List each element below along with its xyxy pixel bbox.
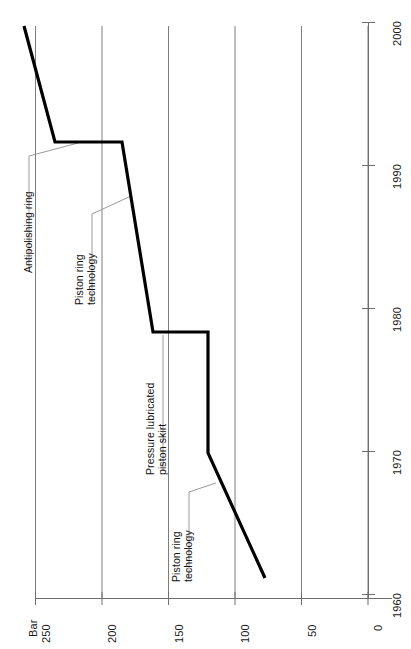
annotation-piston-ring-technology-lower: Piston ring technology (171, 530, 195, 582)
y-tick-label-2000: 2000 (392, 21, 404, 46)
y-tick-label-1970: 1970 (392, 450, 404, 475)
x-tick-label-100: 100 (240, 624, 252, 643)
annotation-line-2: piston skirt (157, 383, 169, 475)
annotation-line-1: Piston ring (74, 253, 86, 305)
chart-plot-area (0, 0, 411, 649)
x-tick-label-250: 250 (41, 624, 53, 643)
y-axis (362, 22, 375, 599)
x-axis-title: Bar (28, 620, 40, 637)
annotation-line-1: Pressure lubricated (145, 383, 157, 475)
annotation-leaders (29, 143, 216, 577)
y-tick-label-1960: 1960 (392, 593, 404, 618)
annotation-line-2: technology (183, 530, 195, 582)
y-tick-label-1980: 1980 (392, 307, 404, 332)
x-tick-label-200: 200 (107, 624, 119, 643)
annotation-antipolishing-ring: Antipolishing ring (23, 191, 34, 273)
x-tick-label-150: 150 (174, 624, 186, 643)
leader-antipolishing-ring (29, 143, 78, 268)
chart-container: Bar 250 200 150 100 50 0 2000 1990 1980 … (0, 0, 411, 649)
annotation-line-2: technology (86, 253, 98, 305)
annotation-line-1: Piston ring (171, 530, 183, 582)
annotation-piston-ring-technology-upper: Piston ring technology (74, 253, 98, 305)
data-series-line (24, 26, 265, 578)
x-tick-label-0: 0 (373, 625, 385, 631)
x-axis (36, 592, 393, 605)
y-tick-label-1990: 1990 (392, 164, 404, 189)
gridlines (36, 26, 369, 598)
leader-piston-ring-technology-upper (92, 196, 131, 300)
annotation-pressure-lubricated-piston-skirt: Pressure lubricated piston skirt (145, 383, 169, 475)
x-tick-label-50: 50 (307, 625, 319, 637)
